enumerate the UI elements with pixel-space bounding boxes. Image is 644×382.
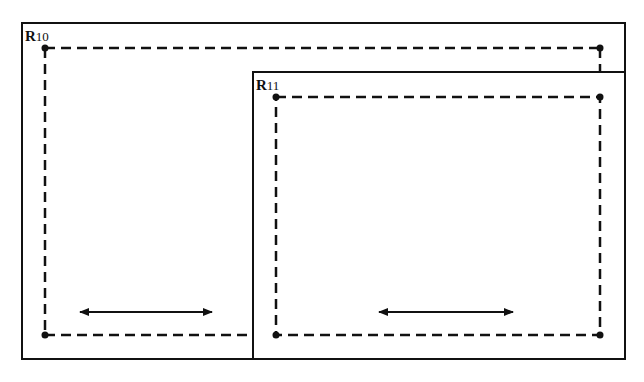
corner-point	[597, 45, 604, 52]
region-r11: R11	[253, 72, 625, 359]
corner-point	[597, 332, 604, 339]
corner-point	[597, 94, 604, 101]
corner-point	[42, 332, 49, 339]
corner-point	[42, 45, 49, 52]
region-r11-border	[253, 72, 625, 359]
corner-point	[273, 94, 280, 101]
region-diagram: R10 R11	[0, 0, 644, 382]
region-r10-label: R10	[25, 28, 49, 44]
corner-point	[273, 332, 280, 339]
region-r11-label: R11	[256, 77, 279, 93]
